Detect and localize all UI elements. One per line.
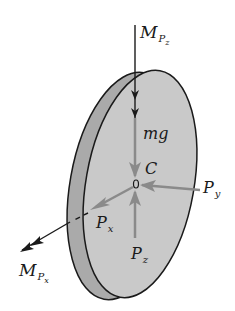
- center-label: C: [145, 161, 157, 177]
- moment-z-label: MPz: [140, 24, 169, 41]
- weight-label: mg: [143, 126, 168, 142]
- force-x-label: Px: [96, 215, 113, 231]
- disk-free-body-diagram: MPz mg C Py Px Pz MPx: [0, 0, 235, 311]
- force-z-label: Pz: [131, 246, 148, 262]
- moment-x-label: MPx: [19, 262, 49, 279]
- force-y-label: Py: [203, 180, 220, 196]
